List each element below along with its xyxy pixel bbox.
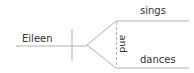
fork-upper-branch [87, 21, 116, 45]
subject-word: Eileen [22, 34, 53, 44]
conjunction-word: and [118, 35, 128, 53]
verb-word-2: dances [140, 55, 176, 65]
sentence-diagram: Eileen sings dances and [0, 0, 194, 73]
verb-word-1: sings [140, 6, 166, 16]
fork-lower-branch [87, 45, 116, 68]
